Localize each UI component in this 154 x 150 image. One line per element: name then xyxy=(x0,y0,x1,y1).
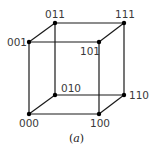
vertex-010 xyxy=(53,93,57,97)
vertex-label-010: 010 xyxy=(61,82,81,94)
vertex-110 xyxy=(122,93,126,97)
vertex-011 xyxy=(53,21,57,25)
caption-close-paren: ) xyxy=(80,132,84,145)
cube-edges xyxy=(29,23,124,114)
edge-000-010 xyxy=(29,95,55,114)
vertex-labels: 000001010011100101110111 xyxy=(7,8,149,129)
vertex-label-100: 100 xyxy=(90,117,110,129)
figure-caption: (a) xyxy=(69,132,84,145)
edge-101-111 xyxy=(99,23,124,42)
edge-100-110 xyxy=(99,95,124,114)
vertex-label-000: 000 xyxy=(19,117,39,129)
vertex-label-101: 101 xyxy=(80,45,100,57)
vertex-100 xyxy=(97,112,101,116)
vertex-label-011: 011 xyxy=(45,8,65,20)
vertex-101 xyxy=(97,40,101,44)
vertex-000 xyxy=(27,112,31,116)
edge-001-011 xyxy=(29,23,55,42)
vertex-111 xyxy=(122,21,126,25)
vertex-label-111: 111 xyxy=(115,8,135,20)
vertex-label-110: 110 xyxy=(129,89,149,101)
vertex-001 xyxy=(27,40,31,44)
vertex-label-001: 001 xyxy=(7,36,27,48)
cube-vertices xyxy=(27,21,126,116)
cube-diagram: 000001010011100101110111 (a) xyxy=(0,0,154,150)
